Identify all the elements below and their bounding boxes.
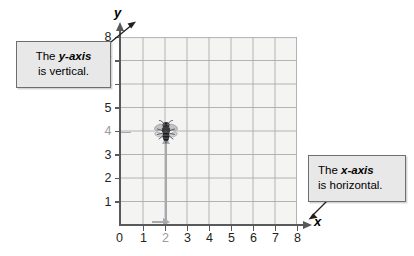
figure-canvas: y x 8 7 6 5 4 3 2 1 0 1 2 3 4 5 6 7 8 xyxy=(0,0,414,256)
x-axis-callout: The x-axis is horizontal. xyxy=(308,155,406,202)
x-callout-leader-line xyxy=(0,0,414,256)
x-callout-line1: The x-axis xyxy=(318,163,396,178)
x-callout-line2: is horizontal. xyxy=(318,178,396,193)
x-callout-term: x-axis xyxy=(341,164,374,176)
